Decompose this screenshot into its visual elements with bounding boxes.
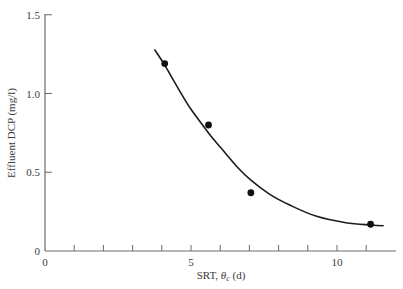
y-ticks: 00.51.01.5: [26, 9, 52, 257]
x-tick-label: 10: [332, 256, 344, 268]
x-tick-label: 5: [188, 256, 194, 268]
data-point: [161, 60, 168, 67]
data-point: [367, 221, 374, 228]
y-axis-label: Effluent DCP (mg/l): [5, 88, 18, 178]
x-axis-label: SRT, θc (d): [197, 269, 246, 283]
y-tick-label: 1.5: [26, 9, 40, 21]
y-tick-label: 1.0: [26, 88, 40, 100]
data-point: [205, 122, 212, 129]
y-tick-label: 0: [35, 245, 41, 257]
data-point: [247, 189, 254, 196]
axes: [45, 14, 396, 251]
y-tick-label: 0.5: [26, 166, 40, 178]
x-tick-label: 0: [42, 256, 48, 268]
chart: 0510 00.51.01.5 SRT, θc (d) Effluent DCP…: [0, 0, 403, 289]
fit-curve-layer: [155, 49, 384, 225]
data-points: [161, 60, 374, 227]
fit-curve: [155, 49, 384, 225]
x-ticks: 0510: [42, 245, 366, 268]
